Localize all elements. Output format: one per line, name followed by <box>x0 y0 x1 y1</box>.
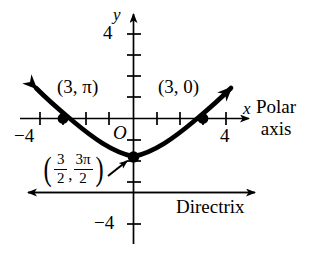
vertex-pointer-arrow <box>108 161 127 176</box>
vertex-coordinate-label: ( 3 2 , 3π 2 ) <box>42 152 105 187</box>
coordinate-comma: , <box>68 165 72 187</box>
polar-axis-line-1: Polar <box>256 96 296 118</box>
y-axis <box>127 14 141 244</box>
theta-numerator: 3π <box>74 152 93 168</box>
x-axis <box>20 112 249 125</box>
open-paren: ( <box>44 156 52 183</box>
r-fraction: 3 2 <box>54 152 67 187</box>
point-label-3-pi: (3, π) <box>57 77 98 96</box>
close-paren: ) <box>95 156 103 183</box>
y-tick-label-neg4: −4 <box>94 213 114 232</box>
x-axis-label: x <box>243 100 251 117</box>
point-label-3-0: (3, 0) <box>158 77 199 96</box>
y-tick-label-4: 4 <box>103 23 113 42</box>
theta-fraction: 3π 2 <box>74 152 93 187</box>
y-axis-label: y <box>113 6 121 23</box>
point-3-pi <box>58 113 69 124</box>
point-vertex <box>128 151 140 163</box>
x-tick-label-4: 4 <box>220 126 230 145</box>
polar-parabola-figure: y x O 4 −4 −4 4 (3, π) (3, 0) Polar axis… <box>0 0 326 254</box>
r-numerator: 3 <box>55 152 67 168</box>
x-tick-label-neg4: −4 <box>14 126 34 145</box>
point-3-0 <box>198 113 209 124</box>
polar-axis-label: Polar axis <box>256 96 296 140</box>
directrix-label: Directrix <box>176 197 245 216</box>
theta-denominator: 2 <box>77 171 89 187</box>
origin-label: O <box>113 123 127 142</box>
polar-axis-line-2: axis <box>256 118 296 140</box>
r-denominator: 2 <box>55 171 67 187</box>
